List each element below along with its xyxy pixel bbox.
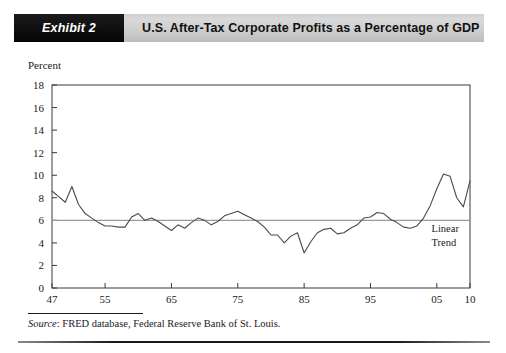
y-tick-label: 2 xyxy=(39,259,45,271)
source-note: Source: FRED database, Federal Reserve B… xyxy=(28,318,280,329)
linear-trend-label-line1: Linear xyxy=(432,223,460,234)
y-tick-label: 4 xyxy=(39,237,45,249)
x-tick-label: 85 xyxy=(299,293,311,305)
x-tick-label: 75 xyxy=(232,293,244,305)
bottom-rule-divider xyxy=(18,341,490,343)
source-rule-divider xyxy=(28,313,143,314)
x-tick-label: 05 xyxy=(431,293,443,305)
linear-trend-label-line2: Trend xyxy=(432,237,457,248)
x-tick-label: 55 xyxy=(100,293,112,305)
x-tick-label: 47 xyxy=(47,293,59,305)
x-tick-label: 10 xyxy=(465,293,477,305)
y-tick-label: 0 xyxy=(39,282,45,294)
source-label: Source xyxy=(28,318,57,329)
corporate-profits-line-chart: 0246810121416184755657585950510LinearTre… xyxy=(0,0,506,353)
x-tick-label: 95 xyxy=(365,293,377,305)
y-tick-label: 10 xyxy=(33,169,45,181)
y-tick-label: 18 xyxy=(33,79,45,91)
y-tick-label: 12 xyxy=(33,147,44,159)
y-tick-label: 14 xyxy=(33,124,45,136)
y-tick-label: 8 xyxy=(39,192,45,204)
plot-frame xyxy=(52,85,470,288)
y-tick-label: 16 xyxy=(33,102,45,114)
source-text: FRED database, Federal Reserve Bank of S… xyxy=(62,318,280,329)
y-tick-label: 6 xyxy=(39,214,45,226)
x-tick-label: 65 xyxy=(166,293,178,305)
data-series-line xyxy=(52,174,470,253)
